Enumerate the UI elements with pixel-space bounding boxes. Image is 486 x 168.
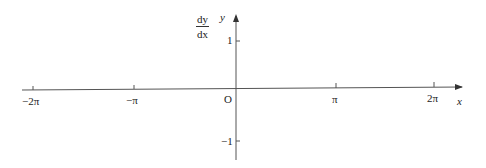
x-axis	[22, 87, 462, 90]
fraction-numerator: dy	[196, 13, 209, 27]
x-axis-arrow-icon	[455, 84, 463, 90]
x-tick-label-neg-2pi: −2π	[22, 96, 39, 107]
y-axis-arrow-icon	[233, 14, 239, 22]
x-tick-label-neg-pi: −π	[126, 95, 138, 106]
y-tick-label-neg-1: −1	[221, 136, 233, 147]
fraction-denominator: dx	[196, 27, 209, 40]
origin-label: O	[224, 94, 232, 105]
dy-dx-label: dy dx	[196, 13, 209, 40]
y-axis-label: y	[220, 12, 225, 23]
y-tick-label-1: 1	[227, 35, 233, 46]
x-tick-label-2pi: 2π	[427, 93, 438, 104]
x-axis-label: x	[457, 96, 462, 107]
axes-canvas	[0, 0, 486, 168]
x-tick-label-pi: π	[332, 94, 338, 105]
